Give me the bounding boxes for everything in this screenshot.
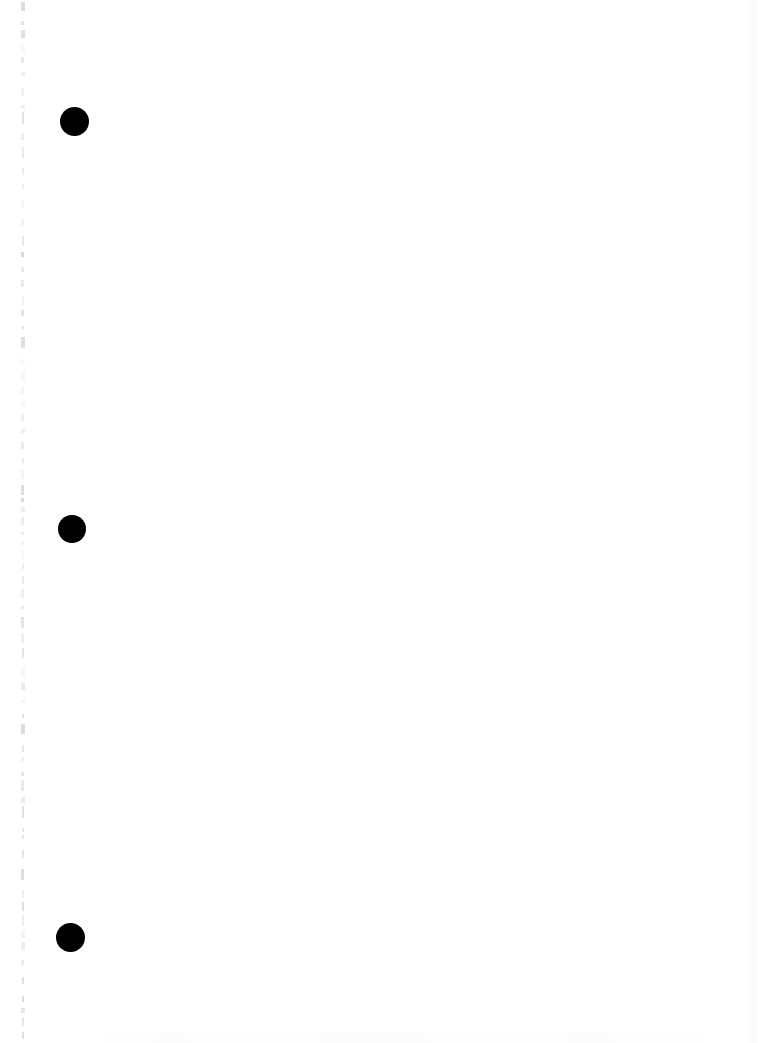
binding-line-dash xyxy=(21,797,25,803)
binding-line-dash xyxy=(21,960,24,965)
binding-line-dash xyxy=(22,902,24,911)
binding-line-dash xyxy=(21,931,25,938)
binding-line-dash xyxy=(22,828,24,832)
binding-line-dash xyxy=(21,134,24,140)
binding-line-dash xyxy=(21,310,24,316)
binding-line-dash xyxy=(21,57,24,63)
binding-line-dash xyxy=(21,617,24,628)
binding-line-dash xyxy=(21,470,24,479)
binding-line-dash xyxy=(21,724,25,734)
binding-line-dash xyxy=(21,507,25,512)
binding-line-dash xyxy=(21,442,24,449)
binding-line-dash xyxy=(21,633,24,643)
binding-line-dash xyxy=(21,2,25,11)
binding-line-dash xyxy=(21,772,24,776)
binding-line-dash xyxy=(21,372,25,381)
page-right-edge-shadow xyxy=(742,0,758,1043)
binding-line-dash xyxy=(22,890,24,898)
binding-line-dash xyxy=(22,648,24,658)
binding-line-dash xyxy=(22,297,24,305)
binding-line-dash xyxy=(21,30,25,38)
binding-line-dash xyxy=(21,72,25,76)
binding-line-dash xyxy=(21,517,24,525)
binding-line-dash xyxy=(21,267,24,272)
binding-line-dash xyxy=(21,401,25,406)
binding-line-dash xyxy=(22,564,24,569)
binding-line-dash xyxy=(22,236,24,246)
binding-line-dash xyxy=(22,551,24,559)
binding-line-dash xyxy=(22,714,24,718)
binding-line-dash xyxy=(21,414,24,421)
binding-line-dash xyxy=(22,745,24,752)
binding-line-dash xyxy=(21,252,24,257)
binding-line-dash xyxy=(22,147,24,158)
binding-line-dash xyxy=(21,429,25,433)
bullet-dot-2 xyxy=(58,515,86,543)
binding-line-dash xyxy=(21,219,24,226)
binding-line-dash xyxy=(22,326,24,329)
binding-line-dash xyxy=(21,700,25,703)
binding-line-dash xyxy=(21,531,24,535)
binding-line-dash xyxy=(21,21,24,25)
binding-line-dash xyxy=(21,1008,25,1013)
binding-line-dash xyxy=(21,942,25,950)
binding-line-dash xyxy=(22,757,24,761)
binding-line-dash xyxy=(21,337,25,348)
bullet-dot-1 xyxy=(60,107,89,136)
ghost-header-strip xyxy=(120,0,680,9)
binding-line-dash xyxy=(21,200,24,208)
binding-line-dash xyxy=(22,576,24,584)
binding-line-dash xyxy=(21,498,24,502)
binding-line-dash xyxy=(22,112,24,124)
binding-line-dash xyxy=(22,835,24,839)
binding-line-dash xyxy=(22,1032,24,1039)
binding-line-dash xyxy=(21,88,24,96)
binding-line-dash xyxy=(22,977,24,984)
binding-line-dash xyxy=(21,683,25,690)
binding-line-dash xyxy=(22,168,24,175)
binding-line-dash xyxy=(22,458,24,464)
binding-line-dash xyxy=(22,850,24,858)
binding-line-dash xyxy=(21,105,25,109)
binding-line-dash xyxy=(21,542,24,545)
binding-line-dash xyxy=(21,485,24,495)
bullet-dot-3 xyxy=(56,923,85,952)
binding-line-dash xyxy=(22,915,24,926)
binding-line-dash xyxy=(21,280,24,287)
binding-line-dash xyxy=(21,668,25,677)
binding-line-dash xyxy=(22,1017,24,1026)
binding-line-dash xyxy=(22,996,24,1002)
binding-line-dash xyxy=(21,359,25,363)
binding-line-dash xyxy=(21,780,24,791)
binding-line-dash xyxy=(21,387,24,394)
binding-line-dash xyxy=(22,806,24,818)
binding-edge-line xyxy=(21,0,26,1043)
binding-line-dash xyxy=(21,46,25,53)
ghost-footer-strip xyxy=(90,1033,730,1043)
binding-line-dash xyxy=(21,869,24,880)
binding-line-dash xyxy=(21,589,24,598)
binding-line-dash xyxy=(21,606,24,609)
binding-line-dash xyxy=(22,183,24,190)
scanned-page xyxy=(0,0,758,1043)
